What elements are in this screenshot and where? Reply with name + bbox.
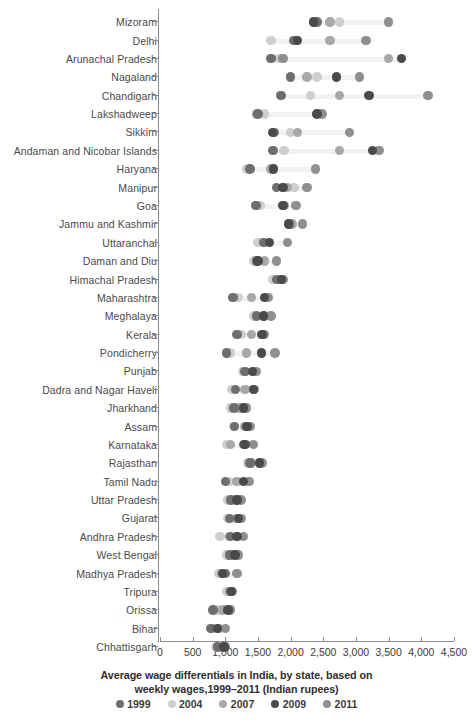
y-axis-label-andaman-and-nicobar-islands: Andaman and Nicobar Islands: [14, 144, 157, 158]
legend-item-2009[interactable]: 2009: [271, 698, 306, 710]
table-row: Tripura: [0, 585, 473, 599]
data-point-1999: [245, 164, 254, 173]
y-axis-tick: [153, 554, 158, 555]
legend-item-2011[interactable]: 2011: [323, 698, 357, 710]
y-axis-tick: [153, 481, 158, 482]
y-axis-tick: [153, 517, 158, 518]
range-band: [272, 130, 349, 135]
data-point-2009: [219, 642, 228, 651]
data-point-2007: [226, 440, 235, 449]
dot-plot-chart: MizoramDelhiArunachal PradeshNagalandCha…: [0, 0, 473, 722]
y-axis-label-west-bengal: West Bengal: [97, 548, 157, 562]
y-axis-tick: [153, 499, 158, 500]
y-axis-label-tripura: Tripura: [123, 585, 157, 599]
data-point-1999: [230, 422, 239, 431]
data-point-2007: [325, 36, 334, 45]
data-point-2009: [230, 550, 239, 559]
y-axis-label-maharashtra: Maharashtra: [97, 291, 157, 305]
data-point-1999: [245, 458, 254, 467]
legend-swatch-icon: [323, 700, 331, 708]
y-axis-label-lakshadweep: Lakshadweep: [91, 107, 157, 121]
legend-label: 2009: [283, 698, 306, 710]
data-point-1999: [221, 477, 230, 486]
y-axis-tick: [153, 462, 158, 463]
legend-swatch-icon: [219, 700, 227, 708]
legend-item-2004[interactable]: 2004: [168, 698, 203, 710]
y-axis-label-andhra-pradesh: Andhra Pradesh: [80, 530, 157, 544]
data-point-2011: [345, 128, 354, 137]
x-axis-tick: [356, 637, 357, 641]
table-row: Andhra Pradesh: [0, 530, 473, 544]
table-row: Uttar Pradesh: [0, 493, 473, 507]
y-axis-label-chhattisgarh: Chhattisgarh: [96, 640, 157, 654]
table-row: Haryana: [0, 162, 473, 176]
table-row: Rajasthan: [0, 456, 473, 470]
data-point-1999: [208, 605, 217, 614]
range-band: [271, 57, 402, 62]
x-axis: 05001,0001,5002,0002,5003,0003,5004,0004…: [0, 641, 473, 642]
table-row: Daman and Diu: [0, 254, 473, 268]
x-axis-tick-label: 2,500: [310, 646, 336, 658]
y-axis-tick: [153, 444, 158, 445]
y-axis-tick: [153, 131, 158, 132]
data-point-2007: [335, 146, 344, 155]
x-axis-tick: [291, 637, 292, 641]
y-axis-label-kerala: Kerala: [126, 328, 157, 342]
table-row: Goa: [0, 199, 473, 213]
x-axis-tick: [389, 637, 390, 641]
y-axis-tick: [153, 187, 158, 188]
data-point-2011: [311, 164, 320, 173]
y-axis-label-jammu-and-kashmir: Jammu and Kashmir: [59, 217, 157, 231]
y-axis-label-manipur: Manipur: [118, 181, 157, 195]
table-row: Himachal Pradesh: [0, 273, 473, 287]
y-axis-label-rajasthan: Rajasthan: [109, 456, 157, 470]
x-axis-tick: [160, 637, 161, 641]
y-axis-label-assam: Assam: [124, 420, 157, 434]
data-point-2004: [312, 72, 321, 81]
data-point-2009: [242, 422, 251, 431]
data-point-1999: [231, 385, 240, 394]
y-axis-tick: [153, 95, 158, 96]
y-axis-tick: [153, 609, 158, 610]
table-row: Maharashtra: [0, 291, 473, 305]
data-point-2009: [265, 238, 274, 247]
y-axis-tick: [153, 536, 158, 537]
y-axis-label-bihar: Bihar: [132, 622, 157, 636]
y-axis-label-mizoram: Mizoram: [116, 15, 157, 29]
y-axis-tick: [153, 260, 158, 261]
data-point-2011: [298, 219, 307, 228]
data-point-2011: [249, 440, 258, 449]
y-axis-label-dadra-and-nagar-haveli: Dadra and Nagar Haveli: [42, 383, 157, 397]
data-point-2009: [397, 54, 406, 63]
x-axis-tick-label: 3,500: [376, 646, 402, 658]
y-axis-tick: [153, 573, 158, 574]
legend-item-1999[interactable]: 1999: [116, 698, 151, 710]
y-axis-tick: [153, 113, 158, 114]
y-axis-label-arunachal-pradesh: Arunachal Pradesh: [66, 52, 157, 66]
legend-label: 2007: [231, 698, 254, 710]
y-axis-label-jharkhand: Jharkhand: [107, 401, 157, 415]
table-row: Jharkhand: [0, 401, 473, 415]
y-axis-label-orissa: Orissa: [126, 603, 157, 617]
y-axis-tick: [153, 168, 158, 169]
data-point-2004: [335, 17, 344, 26]
x-axis-tick: [258, 637, 259, 641]
table-row: Mizoram: [0, 15, 473, 29]
x-axis-line: [160, 641, 454, 642]
data-point-2011: [423, 91, 432, 100]
data-point-1999: [225, 514, 234, 523]
data-point-2011: [361, 36, 370, 45]
legend-item-2007[interactable]: 2007: [219, 698, 254, 710]
table-row: Gujarat: [0, 511, 473, 525]
range-band: [247, 167, 316, 172]
y-axis-tick: [153, 628, 158, 629]
x-axis-tick: [193, 637, 194, 641]
y-axis-label-uttaranchal: Uttaranchal: [102, 236, 157, 250]
y-axis-line: [158, 9, 159, 642]
y-axis-label-tamil-nadu: Tamil Nadu: [103, 475, 157, 489]
legend-label: 2011: [335, 698, 358, 710]
table-row: Kerala: [0, 328, 473, 342]
y-axis-tick: [153, 40, 158, 41]
table-row: Tamil Nadu: [0, 475, 473, 489]
data-point-2009: [278, 201, 287, 210]
